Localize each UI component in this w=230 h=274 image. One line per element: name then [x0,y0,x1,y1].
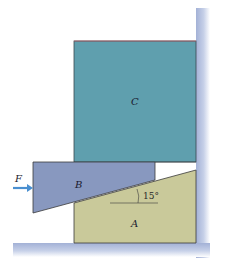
label-force: F [14,173,23,184]
label-wedge-a: A [130,218,138,229]
force-arrow-head [27,184,33,192]
label-block-c: C [131,96,139,107]
label-wedge-b: B [74,179,82,190]
wedge-diagram: F C B A 15° [0,0,230,274]
label-angle: 15° [143,191,159,201]
wall [196,8,210,258]
floor [13,243,210,257]
